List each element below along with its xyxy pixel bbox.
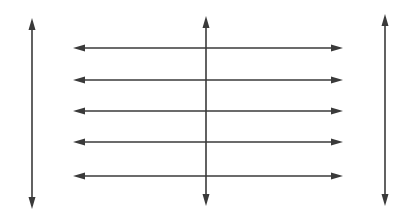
arrow-up-icon xyxy=(382,14,389,26)
arrow-down-icon xyxy=(203,194,210,206)
arrow-down-icon xyxy=(382,194,389,206)
horizontal-arrow-row-2 xyxy=(73,77,343,84)
arrow-right-icon xyxy=(331,173,343,180)
arrow-diagram xyxy=(0,0,404,214)
arrow-left-icon xyxy=(73,108,85,115)
arrow-up-icon xyxy=(29,18,36,30)
arrow-right-icon xyxy=(331,139,343,146)
arrow-left-icon xyxy=(73,173,85,180)
horizontal-arrow-row-5 xyxy=(73,173,343,180)
horizontal-arrow-row-1 xyxy=(73,45,343,52)
arrow-right-icon xyxy=(331,45,343,52)
vertical-arrow-left xyxy=(29,18,36,209)
arrow-up-icon xyxy=(203,16,210,28)
arrow-right-icon xyxy=(331,108,343,115)
arrow-right-icon xyxy=(331,77,343,84)
horizontal-arrow-row-3 xyxy=(73,108,343,115)
arrow-left-icon xyxy=(73,77,85,84)
arrow-left-icon xyxy=(73,139,85,146)
arrow-left-icon xyxy=(73,45,85,52)
arrow-grid-svg xyxy=(0,0,404,214)
arrow-down-icon xyxy=(29,197,36,209)
horizontal-arrow-row-4 xyxy=(73,139,343,146)
vertical-arrow-right xyxy=(382,14,389,206)
